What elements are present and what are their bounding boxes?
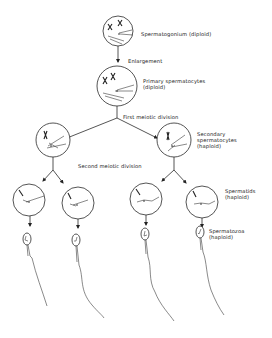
label-spermatogonium: Spermatogonium (diploid) (141, 31, 211, 37)
spermatozoon-1 (23, 233, 47, 306)
label-second-meiotic-division: Second meiotic division (78, 163, 142, 169)
label-enlargement: Enlargement (128, 58, 162, 64)
label-spermatids: Spermatids (haploid) (225, 188, 256, 200)
secondary-spermatocyte-left (36, 123, 70, 157)
label-first-meiotic-division: First meiotic division (123, 114, 178, 120)
label-secondary-line3: (haploid) (197, 143, 237, 149)
spermatogonium-cell (103, 16, 133, 46)
spermatid-3 (130, 183, 162, 215)
spermatid-1 (13, 184, 45, 216)
spermatid-4 (186, 186, 218, 218)
label-primary-spermatocytes: Primary spermatocytes (diploid) (143, 78, 205, 90)
first-division-connector (67, 106, 157, 138)
second-division-right-connector (162, 157, 186, 183)
spermatid-2 (62, 187, 94, 219)
spermatozoon-2 (72, 234, 104, 318)
label-spermatids-line2: (haploid) (225, 194, 256, 200)
spermatogenesis-diagram: Spermatogonium (diploid) Enlargement Pri… (0, 0, 272, 338)
maturation-arrows (30, 215, 202, 228)
primary-spermatocyte-cell (97, 66, 137, 106)
label-spermatozoa: Spermatozoa (haploid) (209, 228, 244, 240)
label-spermatozoa-line2: (haploid) (209, 234, 244, 240)
spermatozoon-3 (141, 228, 174, 321)
second-division-left-connector (43, 157, 63, 183)
label-primary-line2: (diploid) (143, 84, 205, 90)
label-secondary-spermatocytes: Secondary spermatocytes (haploid) (197, 131, 237, 150)
secondary-spermatocyte-right (157, 123, 191, 157)
